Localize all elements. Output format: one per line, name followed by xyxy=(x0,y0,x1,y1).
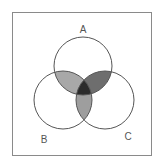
venn-diagram: A B C xyxy=(0,0,159,163)
label-a: A xyxy=(80,24,87,35)
label-b: B xyxy=(41,134,48,145)
label-c: C xyxy=(124,131,131,142)
